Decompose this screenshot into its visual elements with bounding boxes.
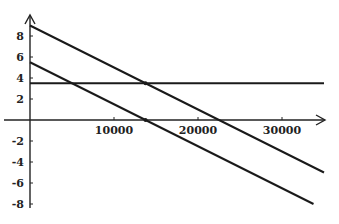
axes <box>4 15 325 208</box>
y-tick-label: 2 <box>16 93 24 106</box>
x-tick-label: 20000 <box>179 124 218 137</box>
series-lines <box>30 26 324 205</box>
y-tick-label: 8 <box>16 30 24 43</box>
y-tick-label: -4 <box>12 156 25 169</box>
series-line-1 <box>30 26 324 173</box>
x-tick-label: 30000 <box>263 124 302 137</box>
y-tick-label: -2 <box>12 135 24 148</box>
intersection-dot <box>144 118 148 122</box>
y-tick-label: -6 <box>12 177 25 190</box>
y-tick-label: 4 <box>16 72 24 85</box>
line-chart: 100002000030000 8642-2-4-6-8 <box>0 0 339 224</box>
x-tick-label: 10000 <box>95 124 134 137</box>
intersection-markers <box>144 81 148 122</box>
y-tick-label: -8 <box>12 198 25 211</box>
intersection-dot <box>144 81 148 85</box>
y-tick-label: 6 <box>16 51 24 64</box>
